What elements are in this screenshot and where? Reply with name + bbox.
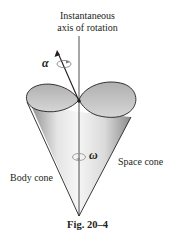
cone-diagram	[0, 0, 175, 244]
body-cone	[30, 103, 79, 215]
space-cone-top	[79, 82, 136, 117]
alpha-label: α	[42, 58, 49, 69]
body-cone-top	[26, 84, 79, 112]
figure-caption: Fig. 20–4	[0, 219, 175, 230]
body-cone-label: Body cone	[10, 172, 53, 183]
space-cone-label: Space cone	[118, 156, 163, 167]
omega-label: ω	[89, 150, 98, 161]
